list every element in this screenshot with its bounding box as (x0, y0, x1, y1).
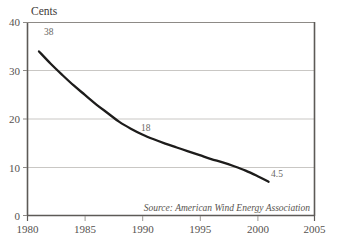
chart-canvas: Cents 40 30 20 10 0 1980 1985 1990 1995 … (0, 0, 340, 246)
x-axis-label-1985: 1985 (74, 223, 97, 235)
y-axis-label-10: 10 (9, 162, 21, 174)
y-axis-unit-label: Cents (31, 5, 58, 17)
x-axis-label-2000: 2000 (247, 223, 270, 235)
data-label-4-5: 4.5 (271, 169, 283, 179)
y-axis-label-30: 30 (9, 65, 21, 77)
x-axis-label-2005: 2005 (304, 223, 327, 235)
source-attribution: Source: American Wind Energy Association (144, 203, 310, 213)
x-axis-label-1980: 1980 (17, 223, 40, 235)
x-axis-label-1995: 1995 (189, 223, 212, 235)
y-axis-label-20: 20 (9, 113, 21, 125)
data-label-18: 18 (141, 123, 151, 133)
data-label-38: 38 (44, 27, 54, 37)
y-axis-label-0: 0 (15, 210, 21, 222)
wind-energy-cost-chart: Cents 40 30 20 10 0 1980 1985 1990 1995 … (0, 0, 340, 246)
y-axis-label-40: 40 (9, 16, 21, 28)
x-axis-label-1990: 1990 (132, 223, 155, 235)
